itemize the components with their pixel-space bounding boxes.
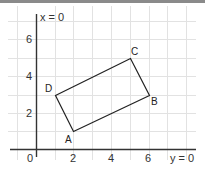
vertical-axis-label: x = 0: [40, 11, 64, 23]
y-tick-6: 6: [26, 33, 32, 45]
vertex-label-c: C: [131, 46, 138, 57]
y-tick-4: 4: [26, 70, 32, 82]
horizontal-axis-label: y = 0: [170, 152, 194, 164]
vertex-label-d: D: [45, 83, 52, 94]
y-tick-2: 2: [26, 107, 32, 119]
x-tick-2: 2: [70, 152, 76, 164]
coordinate-plane: x = 0 y = 0 0 2 4 6 2 4 6 A B C D: [0, 0, 205, 169]
vertex-label-b: B: [151, 96, 158, 107]
vertex-label-a: A: [65, 134, 72, 145]
x-tick-4: 4: [108, 152, 114, 164]
origin-label: 0: [27, 152, 33, 164]
x-tick-6: 6: [145, 152, 151, 164]
